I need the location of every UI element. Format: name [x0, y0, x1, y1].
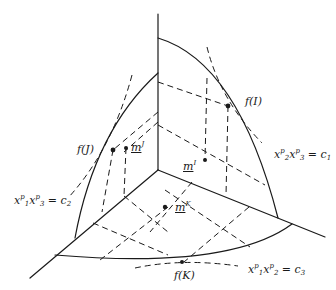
guide-line: [226, 106, 228, 196]
m-K-sup: K: [185, 200, 190, 208]
guide-line: [205, 78, 207, 160]
guide-line: [93, 223, 168, 255]
label-curve-c1: xp2xp3 = c1: [274, 148, 331, 162]
point-m-J: [124, 146, 128, 150]
guide-line: [102, 150, 113, 212]
guide-line: [165, 190, 250, 247]
label-m-I: mI: [183, 160, 196, 172]
label-f-J: f(J): [77, 144, 94, 155]
level-curve-c3: [135, 262, 238, 268]
surface-bottom-arc: [55, 224, 292, 259]
surface-top-arc: [158, 38, 278, 218]
guide-line: [184, 207, 249, 262]
point-f-I: [226, 104, 231, 109]
axis-left: [30, 170, 158, 278]
label-curve-c2: xp1xp3 = c2: [14, 194, 71, 208]
diagram-canvas: [0, 0, 336, 290]
label-m-J: mJ: [131, 141, 144, 153]
point-m-I: [203, 158, 207, 162]
label-f-K: f(K): [174, 270, 195, 281]
point-f-J: [111, 148, 116, 153]
label-m-K: mK: [175, 201, 191, 213]
guide-line: [124, 148, 126, 196]
m-K-base: m: [175, 201, 185, 214]
guide-line: [158, 82, 228, 106]
m-I-base: m: [183, 160, 193, 173]
level-curve-c2: [68, 75, 132, 198]
m-I-sup: I: [193, 159, 196, 167]
guide-line: [124, 196, 168, 232]
guide-line: [100, 207, 168, 260]
point-m-K: [163, 205, 167, 209]
m-J-base: m: [131, 141, 141, 154]
label-f-I: f(I): [245, 96, 262, 107]
label-curve-c3: xp1xp2 = c3: [248, 263, 305, 277]
m-J-sup: J: [141, 140, 144, 148]
point-f-K: [180, 260, 184, 264]
